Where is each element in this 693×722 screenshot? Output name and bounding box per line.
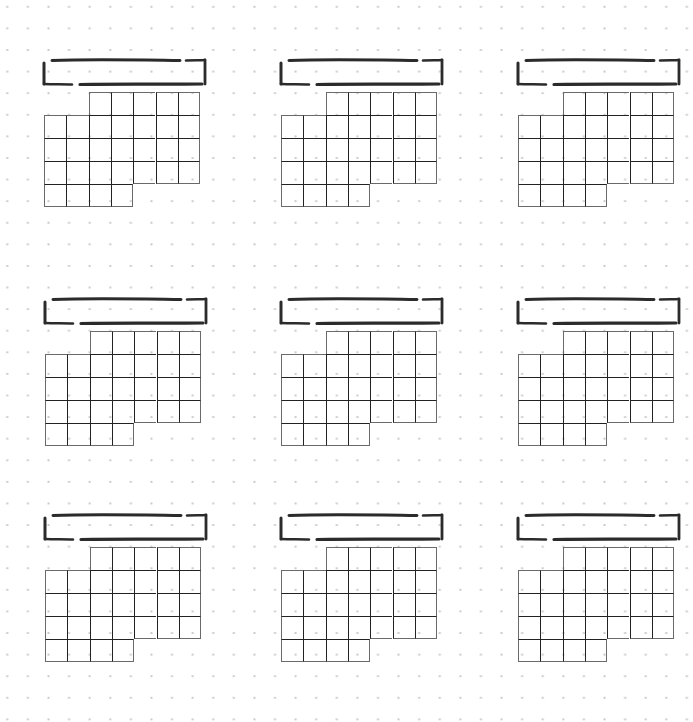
day-cell[interactable] <box>393 115 415 138</box>
day-cell[interactable] <box>607 593 629 616</box>
day-cell[interactable] <box>326 354 348 377</box>
day-cell[interactable] <box>652 547 674 570</box>
month-header-box[interactable] <box>277 57 443 83</box>
day-cell[interactable] <box>111 115 133 138</box>
day-cell[interactable] <box>607 115 629 138</box>
day-cell[interactable] <box>281 639 303 662</box>
day-cell[interactable] <box>370 377 392 400</box>
day-cell[interactable] <box>348 400 370 423</box>
day-cell[interactable] <box>607 570 629 593</box>
day-cell[interactable] <box>630 161 652 184</box>
day-cell[interactable] <box>607 400 629 423</box>
day-cell[interactable] <box>518 161 540 184</box>
day-cell[interactable] <box>134 377 156 400</box>
day-cell[interactable] <box>178 161 200 184</box>
day-cell[interactable] <box>281 423 303 446</box>
day-cell[interactable] <box>652 593 674 616</box>
day-cell[interactable] <box>326 593 348 616</box>
day-cell[interactable] <box>348 115 370 138</box>
day-cell[interactable] <box>89 92 111 115</box>
day-cell[interactable] <box>67 593 89 616</box>
day-cell[interactable] <box>415 547 437 570</box>
day-cell[interactable] <box>540 423 562 446</box>
day-cell[interactable] <box>112 639 134 662</box>
day-cell[interactable] <box>281 570 303 593</box>
day-cell[interactable] <box>415 331 437 354</box>
day-cell[interactable] <box>563 639 585 662</box>
day-cell[interactable] <box>540 593 562 616</box>
day-cell[interactable] <box>652 377 674 400</box>
day-cell[interactable] <box>179 377 201 400</box>
day-cell[interactable] <box>90 400 112 423</box>
day-cell[interactable] <box>157 616 179 639</box>
day-cell[interactable] <box>585 639 607 662</box>
day-cell[interactable] <box>67 377 89 400</box>
day-cell[interactable] <box>393 92 415 115</box>
day-cell[interactable] <box>89 138 111 161</box>
day-cell[interactable] <box>326 115 348 138</box>
day-cell[interactable] <box>133 161 155 184</box>
day-cell[interactable] <box>133 138 155 161</box>
day-cell[interactable] <box>66 161 88 184</box>
day-cell[interactable] <box>281 354 303 377</box>
day-cell[interactable] <box>415 616 437 639</box>
day-cell[interactable] <box>348 593 370 616</box>
day-cell[interactable] <box>348 547 370 570</box>
day-cell[interactable] <box>630 616 652 639</box>
day-cell[interactable] <box>518 616 540 639</box>
day-cell[interactable] <box>66 184 88 207</box>
day-cell[interactable] <box>326 161 348 184</box>
day-cell[interactable] <box>157 400 179 423</box>
day-cell[interactable] <box>179 593 201 616</box>
day-cell[interactable] <box>415 92 437 115</box>
month-header-box[interactable] <box>40 57 206 83</box>
day-cell[interactable] <box>281 377 303 400</box>
day-cell[interactable] <box>67 354 89 377</box>
day-cell[interactable] <box>134 616 156 639</box>
day-cell[interactable] <box>111 161 133 184</box>
day-cell[interactable] <box>518 593 540 616</box>
day-cell[interactable] <box>134 547 156 570</box>
day-cell[interactable] <box>585 92 607 115</box>
day-cell[interactable] <box>303 184 325 207</box>
day-cell[interactable] <box>67 400 89 423</box>
day-cell[interactable] <box>563 115 585 138</box>
day-cell[interactable] <box>90 616 112 639</box>
day-cell[interactable] <box>393 400 415 423</box>
day-cell[interactable] <box>540 570 562 593</box>
day-cell[interactable] <box>326 377 348 400</box>
day-cell[interactable] <box>157 570 179 593</box>
month-header-box[interactable] <box>277 512 443 538</box>
day-cell[interactable] <box>393 331 415 354</box>
day-cell[interactable] <box>326 400 348 423</box>
day-cell[interactable] <box>393 354 415 377</box>
day-cell[interactable] <box>540 138 562 161</box>
day-cell[interactable] <box>134 331 156 354</box>
day-cell[interactable] <box>585 377 607 400</box>
day-cell[interactable] <box>563 377 585 400</box>
day-cell[interactable] <box>518 184 540 207</box>
day-cell[interactable] <box>156 161 178 184</box>
day-cell[interactable] <box>89 161 111 184</box>
day-cell[interactable] <box>652 570 674 593</box>
day-cell[interactable] <box>112 331 134 354</box>
day-cell[interactable] <box>90 331 112 354</box>
day-cell[interactable] <box>303 593 325 616</box>
day-cell[interactable] <box>585 161 607 184</box>
day-cell[interactable] <box>134 570 156 593</box>
day-cell[interactable] <box>112 547 134 570</box>
day-cell[interactable] <box>44 138 66 161</box>
day-cell[interactable] <box>585 400 607 423</box>
day-cell[interactable] <box>630 354 652 377</box>
day-cell[interactable] <box>630 547 652 570</box>
day-cell[interactable] <box>90 377 112 400</box>
day-cell[interactable] <box>585 423 607 446</box>
day-cell[interactable] <box>652 161 674 184</box>
day-cell[interactable] <box>303 115 325 138</box>
day-cell[interactable] <box>45 400 67 423</box>
day-cell[interactable] <box>348 161 370 184</box>
month-header-box[interactable] <box>277 296 443 322</box>
day-cell[interactable] <box>607 354 629 377</box>
day-cell[interactable] <box>44 115 66 138</box>
day-cell[interactable] <box>563 354 585 377</box>
